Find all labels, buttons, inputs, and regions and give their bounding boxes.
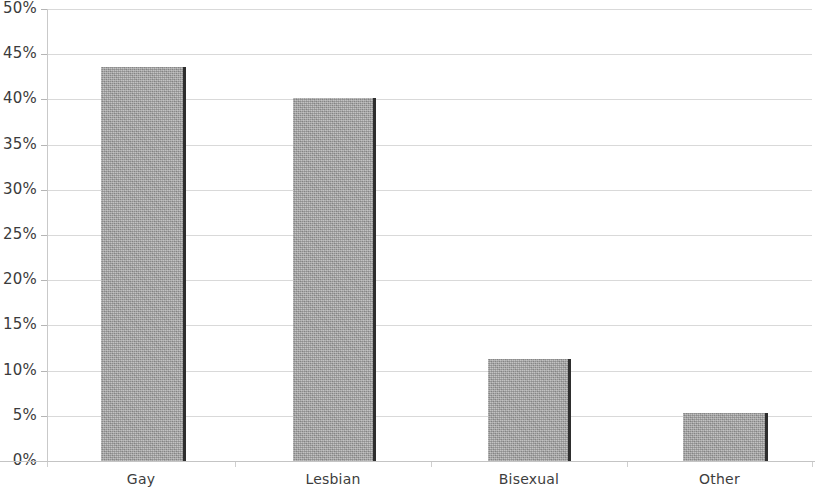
- x-axis-tick: [47, 462, 48, 467]
- bar-other[interactable]: [683, 413, 765, 461]
- y-axis-tick: [41, 54, 47, 55]
- y-axis-label: 50%: [0, 0, 37, 17]
- x-axis-tick: [431, 462, 432, 467]
- y-axis-label: 15%: [0, 315, 37, 333]
- y-axis-label: 45%: [0, 44, 37, 62]
- y-axis-label: 20%: [0, 270, 37, 288]
- bar-bisexual[interactable]: [488, 359, 568, 461]
- y-axis-label: 40%: [0, 89, 37, 107]
- x-axis-tick: [812, 462, 813, 467]
- y-axis-label: 5%: [0, 406, 37, 424]
- y-axis-tick: [41, 416, 47, 417]
- x-axis-tick: [627, 462, 628, 467]
- y-axis-label: 35%: [0, 135, 37, 153]
- x-axis-label-bisexual: Bisexual: [431, 471, 627, 487]
- bar-gay[interactable]: [101, 67, 183, 461]
- x-axis-label-gay: Gay: [47, 471, 235, 487]
- x-axis-label-lesbian: Lesbian: [235, 471, 431, 487]
- y-axis-tick: [41, 9, 47, 10]
- x-axis-line: [0, 461, 815, 462]
- x-axis-label-other: Other: [627, 471, 812, 487]
- y-axis-tick: [41, 190, 47, 191]
- gridline: [47, 54, 812, 55]
- x-axis-tick: [235, 462, 236, 467]
- gridline: [47, 9, 812, 10]
- bar-lesbian[interactable]: [293, 98, 373, 461]
- y-axis-tick: [41, 99, 47, 100]
- plot-area: [47, 9, 812, 461]
- y-axis-spine: [47, 9, 48, 462]
- bar-chart: 50%45%40%35%30%25%20%15%10%5%0% GayLesbi…: [0, 0, 815, 493]
- y-axis-label: 0%: [0, 451, 37, 469]
- y-axis-label: 10%: [0, 361, 37, 379]
- y-axis-tick: [41, 280, 47, 281]
- y-axis-label: 25%: [0, 225, 37, 243]
- y-axis-tick: [41, 325, 47, 326]
- y-axis-tick: [41, 145, 47, 146]
- y-axis-label: 30%: [0, 180, 37, 198]
- y-axis-tick: [41, 235, 47, 236]
- y-axis-tick: [41, 371, 47, 372]
